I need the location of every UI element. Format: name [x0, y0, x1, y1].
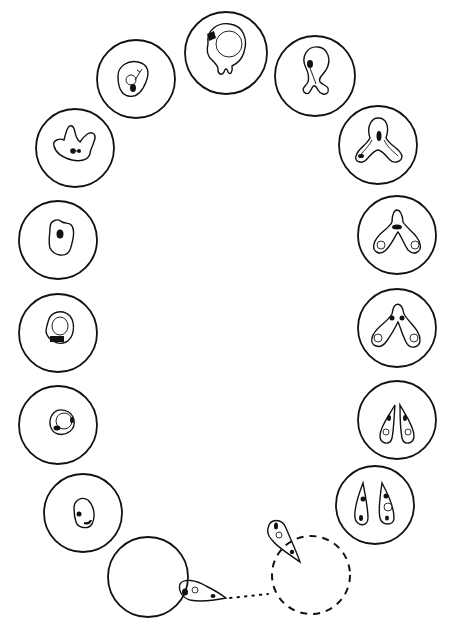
stage-right-4-paired-pyriforms — [358, 381, 436, 459]
stage-right-5-separated-pyriforms — [336, 466, 414, 544]
stage-bottom-right-ghost-cell — [268, 521, 350, 615]
stage-right-2-bilobed — [358, 196, 436, 274]
life-cycle-diagram — [0, 0, 455, 634]
dotted-connector — [230, 594, 268, 598]
stage-left-5-amoeboid — [36, 109, 114, 187]
stage-top-large-ring — [185, 12, 267, 94]
stage-left-1-oval — [44, 474, 122, 552]
stage-upper-right-early-division — [275, 36, 355, 116]
stage-bottom-left-entry — [108, 537, 226, 617]
stage-upper-left-vacuole — [97, 40, 175, 118]
stage-right-3-paired-joined — [358, 289, 436, 367]
stage-left-2-ring — [19, 386, 97, 464]
stage-left-3-vacuole-ring — [19, 294, 97, 372]
stage-left-4-compact — [19, 201, 97, 279]
stage-right-1-trilobed — [339, 106, 417, 184]
